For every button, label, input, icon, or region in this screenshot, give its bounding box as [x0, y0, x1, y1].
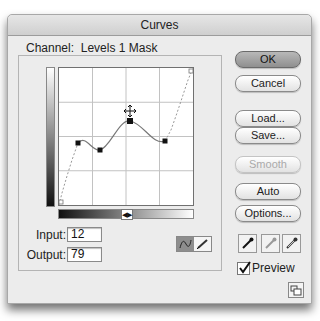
endpoint	[59, 200, 63, 204]
black-point-eyedropper[interactable]	[238, 234, 257, 253]
curve-tool-button[interactable]	[177, 237, 194, 251]
curve-icon	[177, 237, 194, 251]
black-eyedropper-icon	[240, 236, 255, 251]
control-point	[163, 139, 168, 144]
window-title: Curves	[8, 18, 311, 32]
checkmark-icon	[238, 261, 252, 275]
control-point	[98, 148, 103, 153]
curves-dialog: Curves Channel: Levels 1 Mask	[7, 14, 312, 304]
preview-label: Preview	[252, 261, 295, 275]
expand-view-button[interactable]	[288, 282, 304, 298]
output-gradient-bar	[46, 67, 55, 207]
cancel-button[interactable]: Cancel	[235, 75, 301, 92]
input-label: Input:	[16, 228, 66, 242]
input-gradient-bar: ◀▶	[58, 209, 194, 219]
input-field[interactable]	[67, 227, 102, 242]
curve-mode-toggle	[176, 236, 212, 252]
white-point-eyedropper[interactable]	[282, 234, 301, 253]
pencil-icon	[194, 237, 211, 251]
load-button[interactable]: Load...	[235, 110, 301, 127]
curve-graph[interactable]	[58, 67, 194, 206]
gradient-direction-toggle[interactable]: ◀▶	[121, 209, 133, 220]
channel-value: Levels 1 Mask	[81, 41, 158, 55]
control-point-active	[127, 118, 133, 124]
white-eyedropper-icon	[284, 236, 299, 251]
preview-checkbox[interactable]	[237, 262, 250, 275]
output-field[interactable]	[67, 247, 102, 262]
options-button[interactable]: Options...	[235, 205, 301, 222]
smooth-button: Smooth	[235, 156, 301, 173]
expand-view-icon	[289, 283, 303, 297]
endpoint	[189, 69, 193, 73]
auto-button[interactable]: Auto	[235, 183, 301, 200]
ok-button[interactable]: OK	[235, 51, 301, 68]
curve-plot[interactable]	[59, 68, 193, 205]
save-button[interactable]: Save...	[235, 127, 301, 144]
gray-point-eyedropper[interactable]	[261, 234, 280, 253]
control-point	[76, 141, 81, 146]
gray-eyedropper-icon	[263, 236, 278, 251]
output-label: Output:	[16, 248, 66, 262]
title-bar[interactable]: Curves	[8, 15, 311, 36]
pencil-tool-button[interactable]	[194, 237, 211, 251]
channel-caption: Channel:	[26, 41, 74, 55]
channel-label: Channel: Levels 1 Mask	[22, 41, 161, 55]
